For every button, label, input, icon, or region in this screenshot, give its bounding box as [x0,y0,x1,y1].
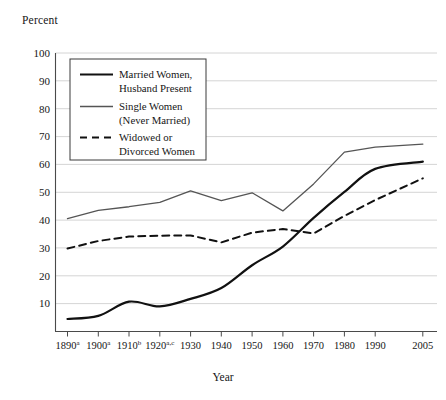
y-axis-tick-labels: 102030405060708090100 [34,47,51,310]
series-line-2 [68,178,423,248]
data-series [68,144,423,319]
y-tick-label: 80 [39,103,51,115]
x-axis-tick-labels: 1890a1900a1910b1920a,c193019401950196019… [55,339,433,351]
y-tick-label: 70 [39,130,51,142]
y-tick-label: 100 [34,47,51,59]
legend-box: Married Women,Husband PresentSingle Wome… [70,59,206,160]
x-tick-label: 1890a [55,339,80,351]
y-tick-label: 20 [39,270,51,282]
legend-label-line2-2: Divorced Women [119,145,196,157]
x-tick-label: 1960 [272,340,293,351]
y-tick-label: 50 [39,186,51,198]
x-tick-label: 2005 [412,340,433,351]
series-line-0 [68,162,423,319]
x-tick-label: 1970 [303,340,324,351]
y-tick-label: 30 [39,242,51,254]
x-tick-label: 1910b [117,339,142,351]
legend-label-line1-2: Widowed or [119,131,173,143]
chart-plot-area: 102030405060708090100 1890a1900a1910b192… [0,0,446,400]
x-tick-label: 1920a,c [145,339,174,351]
y-tick-label: 10 [39,297,51,309]
x-tick-label: 1990 [365,340,386,351]
x-tick-label: 1940 [211,340,232,351]
figure-chart-labor-force-participation: Percent Year 102030405060708090100 1890a… [0,0,446,400]
legend-label-line2-0: Husband Present [119,82,192,94]
y-tick-label: 40 [39,214,51,226]
legend-label-line1-0: Married Women, [119,68,193,80]
x-tick-label: 1930 [180,340,201,351]
x-tick-label: 1980 [334,340,355,351]
x-tick-label: 1950 [242,340,263,351]
legend-label-line2-1: (Never Married) [119,114,190,127]
legend-label-line1-1: Single Women [119,100,183,112]
y-tick-label: 90 [39,75,51,87]
x-tick-label: 1900a [86,339,111,351]
x-axis-tick-marks [68,332,423,337]
y-tick-label: 60 [39,158,51,170]
